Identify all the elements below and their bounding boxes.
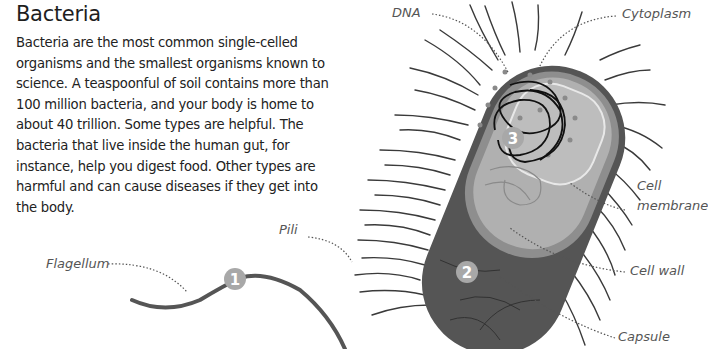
marker-3: 3 [502,127,524,149]
svg-text:2: 2 [462,264,472,282]
label-capsule: Capsule [618,329,670,344]
marker-1: 1 [224,268,246,290]
svg-text:3: 3 [508,130,518,148]
label-flagellum: Flagellum [46,256,109,271]
marker-2: 2 [456,261,478,283]
label-dna: DNA [392,5,421,20]
svg-text:1: 1 [230,271,240,289]
label-cell-wall: Cell wall [630,263,684,278]
label-pili: Pili [279,222,298,237]
label-cytoplasm: Cytoplasm [622,6,691,21]
label-cell-membrane-line2: membrane [637,198,708,213]
label-cell-membrane-line1: Cell [637,178,661,193]
